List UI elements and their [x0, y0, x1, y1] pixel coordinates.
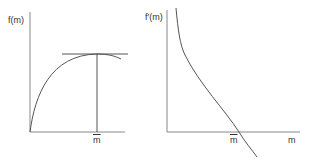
f-prime-curve	[176, 8, 257, 157]
diagram-canvas	[0, 0, 311, 167]
left-y-label: f(m)	[8, 16, 24, 25]
right-x-axis-label: m	[288, 136, 296, 145]
f-curve	[30, 54, 121, 132]
right-m-bar-label: m	[230, 136, 238, 145]
left-chart	[30, 12, 128, 132]
left-m-bar-label: m	[93, 136, 101, 145]
right-y-label: f′(m)	[145, 13, 163, 22]
